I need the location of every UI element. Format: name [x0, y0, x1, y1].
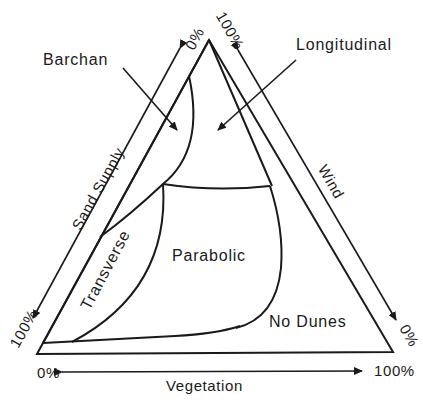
vegetation-end-label: 100%: [374, 362, 415, 379]
vegetation-axis-label: Vegetation: [166, 377, 243, 394]
barchan-label: Barchan: [43, 51, 108, 69]
no-dunes-label: No Dunes: [269, 313, 347, 331]
inner-left-boundary: [43, 40, 209, 343]
longitudinal-parabolic-boundary: [163, 184, 270, 189]
vegetation-start-label: 0%: [37, 364, 60, 381]
inner-bottom-boundary: [43, 326, 240, 343]
longitudinal-label: Longitudinal: [296, 36, 392, 54]
barchan-pointer-arrow: [123, 68, 177, 130]
parabolic-label: Parabolic: [172, 247, 246, 265]
inner-right-boundary: [209, 40, 272, 186]
vegetation-axis-arrow: [62, 371, 362, 372]
